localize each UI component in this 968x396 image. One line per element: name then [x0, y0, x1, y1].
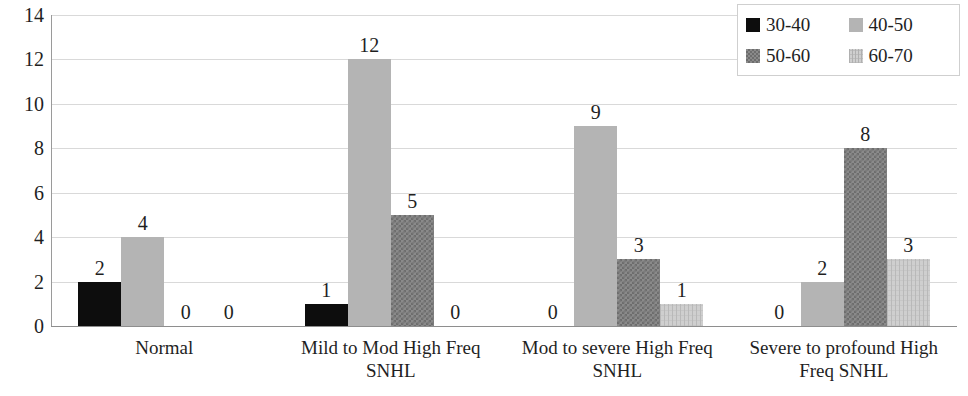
bar-slot: 9 — [574, 15, 617, 326]
bar-value-label: 0 — [450, 302, 460, 322]
bar[interactable] — [78, 282, 121, 326]
x-axis-category-label: Mod to severe High Freq SNHL — [504, 336, 731, 382]
legend-item-label: 60-70 — [869, 46, 913, 65]
bar-group: 0931 — [504, 15, 731, 326]
bar-value-label: 12 — [359, 35, 379, 55]
legend-item[interactable]: 60-70 — [849, 46, 952, 65]
chart-legend: 30-4040-5050-6060-70 — [737, 4, 960, 76]
y-axis-tick-label: 8 — [2, 138, 44, 158]
y-axis-tick-label: 2 — [2, 272, 44, 292]
legend-swatch-icon — [849, 18, 863, 32]
bar-group-bars: 0931 — [531, 15, 703, 326]
bar[interactable] — [391, 215, 434, 326]
y-axis-tick-label: 4 — [2, 227, 44, 247]
bar[interactable] — [844, 148, 887, 326]
bar-value-label: 4 — [138, 213, 148, 233]
bar-value-label: 0 — [181, 302, 191, 322]
bar[interactable] — [121, 237, 164, 326]
bar-group-bars: 2400 — [78, 15, 250, 326]
legend-item[interactable]: 50-60 — [746, 46, 849, 65]
bar[interactable] — [574, 126, 617, 326]
legend-item-label: 50-60 — [766, 46, 810, 65]
bar-slot: 0 — [164, 15, 207, 326]
legend-item[interactable]: 40-50 — [849, 15, 952, 34]
legend-swatch-icon — [849, 49, 863, 63]
bar-value-label: 2 — [95, 258, 105, 278]
bar-slot: 2 — [78, 15, 121, 326]
y-axis-tick-label: 0 — [2, 316, 44, 336]
bar-value-label: 0 — [224, 302, 234, 322]
bar-slot: 5 — [391, 15, 434, 326]
bar[interactable] — [305, 304, 348, 326]
x-axis-category-labels: NormalMild to Mod High Freq SNHLMod to s… — [51, 336, 957, 382]
legend-item[interactable]: 30-40 — [746, 15, 849, 34]
bar-slot: 0 — [207, 15, 250, 326]
bar-slot: 3 — [617, 15, 660, 326]
y-axis-tick-label: 6 — [2, 183, 44, 203]
legend-item-label: 30-40 — [766, 15, 810, 34]
legend-swatch-icon — [746, 18, 760, 32]
legend-item-label: 40-50 — [869, 15, 913, 34]
bar-value-label: 3 — [634, 235, 644, 255]
bar-value-label: 1 — [321, 280, 331, 300]
bar-value-label: 3 — [903, 235, 913, 255]
bar-slot: 1 — [305, 15, 348, 326]
bar[interactable] — [801, 282, 844, 326]
bar-value-label: 8 — [860, 124, 870, 144]
bar-group: 11250 — [278, 15, 505, 326]
bar[interactable] — [617, 259, 660, 326]
bar-group-bars: 11250 — [305, 15, 477, 326]
bar-slot: 4 — [121, 15, 164, 326]
x-axis-category-label: Mild to Mod High Freq SNHL — [278, 336, 505, 382]
y-axis-tick-label: 10 — [2, 94, 44, 114]
bar-value-label: 5 — [407, 191, 417, 211]
bar-slot: 1 — [660, 15, 703, 326]
legend-swatch-icon — [746, 49, 760, 63]
bar-slot: 0 — [434, 15, 477, 326]
y-axis-tick-label: 14 — [2, 5, 44, 25]
bar[interactable] — [660, 304, 703, 326]
bar-chart: 14121086420 24001125009310283 NormalMild… — [0, 0, 968, 396]
x-axis-category-label: Severe to profound High Freq SNHL — [731, 336, 958, 382]
bar-value-label: 0 — [774, 302, 784, 322]
bar-value-label: 2 — [817, 258, 827, 278]
y-axis-tick-label: 12 — [2, 49, 44, 69]
bar[interactable] — [887, 259, 930, 326]
bar-slot: 12 — [348, 15, 391, 326]
bar[interactable] — [348, 59, 391, 326]
y-axis-tick-labels: 14121086420 — [0, 15, 44, 327]
x-axis-line — [51, 326, 957, 327]
bar-value-label: 9 — [591, 102, 601, 122]
bar-slot: 0 — [531, 15, 574, 326]
bar-group: 2400 — [51, 15, 278, 326]
x-axis-category-label: Normal — [51, 336, 278, 382]
bar-value-label: 0 — [548, 302, 558, 322]
bar-value-label: 1 — [677, 280, 687, 300]
